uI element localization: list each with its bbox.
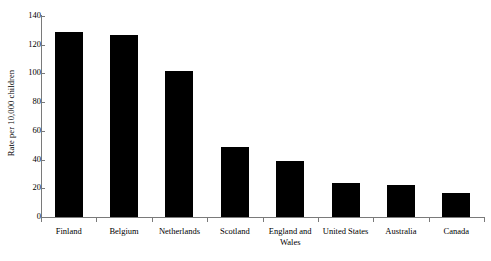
bar-chart: Rate per 10,000 children 020406080100120… (0, 0, 491, 261)
x-axis-label: Belgium (96, 226, 151, 237)
y-axis-tick-label: 20 (33, 182, 42, 192)
bar (165, 71, 193, 217)
bar (276, 161, 304, 217)
bar (387, 185, 415, 217)
bar (110, 35, 138, 217)
x-axis-tick-mark (152, 218, 153, 222)
x-axis-tick-mark (207, 218, 208, 222)
y-axis-tick-label: 100 (28, 67, 41, 77)
bar (442, 193, 470, 217)
x-axis-tick-mark (429, 218, 430, 222)
x-axis-tick-mark (318, 218, 319, 222)
x-axis-tick-mark (263, 218, 264, 222)
x-axis-label: Canada (429, 226, 484, 237)
x-axis-tick-mark (96, 218, 97, 222)
y-axis-tick-label: 60 (33, 125, 42, 135)
x-axis-tick-mark (373, 218, 374, 222)
y-axis-tick-label: 40 (33, 154, 42, 164)
y-axis-tick-label: 120 (28, 39, 41, 49)
bar (221, 147, 249, 217)
y-axis-title-text: Rate per 10,000 children (6, 70, 16, 156)
bar (55, 32, 83, 217)
x-axis-label: Scotland (207, 226, 262, 237)
x-axis-tick-mark (484, 218, 485, 222)
x-axis-label: Netherlands (152, 226, 207, 237)
x-axis-tick-mark (41, 218, 42, 222)
y-axis-tick-label: 140 (28, 10, 41, 20)
x-axis-label: United States (318, 226, 373, 237)
bar (332, 183, 360, 217)
y-axis-title: Rate per 10,000 children (2, 0, 20, 226)
plot-area (41, 16, 484, 217)
x-axis-label: Australia (373, 226, 428, 237)
x-axis-label: England and Wales (263, 226, 318, 248)
y-axis-tick-label: 80 (33, 96, 42, 106)
x-axis-label: Finland (41, 226, 96, 237)
